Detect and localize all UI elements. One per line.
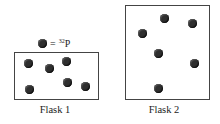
flask-1-particle (25, 85, 34, 94)
flask-2-particle (138, 29, 147, 38)
legend-equals: = (50, 38, 56, 49)
isotope-symbol: P (65, 38, 71, 49)
flask-1-particle (24, 59, 33, 68)
flask-2-particle (160, 14, 169, 23)
flask-1-particle (45, 64, 54, 73)
flask-2-particle (190, 59, 199, 68)
legend-particle-icon (38, 39, 47, 48)
flask-1-particle (63, 78, 72, 87)
legend: = 32P (38, 37, 70, 49)
diagram: = 32P Flask 1 Flask 2 (0, 0, 220, 124)
flask-2-particle (154, 49, 163, 58)
flask-1-particle (81, 82, 90, 91)
flask-1-label: Flask 1 (25, 104, 85, 115)
flask-2-particle (188, 19, 197, 28)
legend-isotope: 32P (59, 38, 71, 49)
flask-2-label: Flask 2 (134, 104, 194, 115)
flask-2-particle (154, 84, 163, 93)
flask-1-particle (62, 57, 71, 66)
